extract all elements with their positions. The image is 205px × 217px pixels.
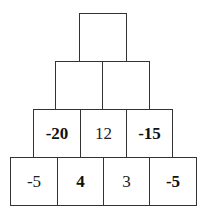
pyramid-cell-r2-c2: [102, 61, 150, 110]
pyramid-cell-r4-c4: -5: [149, 157, 197, 206]
pyramid-cell-r2-c1: [55, 61, 103, 110]
pyramid-cell-r3-c3: -15: [126, 109, 173, 158]
pyramid-cell-r4-c3: 3: [103, 157, 150, 206]
pyramid-cell-r3-c2: 12: [80, 109, 127, 158]
pyramid-cell-r4-c2: 4: [57, 157, 104, 206]
pyramid-cell-r4-c1: -5: [10, 157, 58, 206]
pyramid-cell-r3-c1: -20: [33, 109, 81, 158]
pyramid-cell-r1-c1: [79, 13, 127, 62]
